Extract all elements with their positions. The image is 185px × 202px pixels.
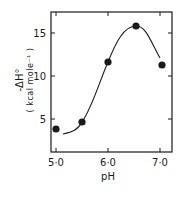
data-point-ph-5.0 <box>52 125 59 132</box>
y-tick-label-15: 15 <box>33 28 46 39</box>
data-point-ph-6.5 <box>132 22 139 29</box>
chart: 5 10 15 5·0 6·0 7·0 pH -ΔH° ( kcal mole⁻… <box>0 0 185 202</box>
data-point-ph-6.0 <box>104 58 111 65</box>
x-tick-label-5: 5·0 <box>48 157 64 168</box>
y-tick-label-5: 5 <box>40 114 46 125</box>
data-points <box>52 22 165 132</box>
data-point-ph-5.5 <box>78 118 85 125</box>
plot-frame <box>51 12 172 152</box>
fitted-curve <box>63 26 160 134</box>
x-tick-label-6: 6·0 <box>100 157 116 168</box>
data-point-ph-7.0 <box>158 61 165 68</box>
x-tick-label-7: 7·0 <box>152 157 168 168</box>
y-tick-label-10: 10 <box>33 71 46 82</box>
y-axis-units: ( kcal mole⁻¹ ) <box>26 48 35 113</box>
x-axis-label: pH <box>101 171 115 182</box>
y-axis-label: -ΔH° <box>14 69 25 92</box>
